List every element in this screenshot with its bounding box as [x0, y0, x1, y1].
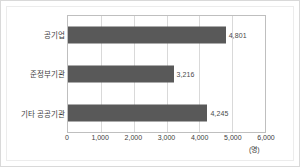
- bar-value-label: 4,801: [226, 32, 247, 39]
- unit-label: (명): [249, 144, 260, 154]
- bar-row: 4,245: [68, 93, 265, 132]
- bar-value-label: 3,216: [174, 70, 195, 77]
- bar[interactable]: [68, 27, 226, 44]
- category-label: 기타 공공기관: [7, 94, 65, 133]
- x-tick-label: 2,000: [125, 134, 143, 141]
- bar-row: 3,216: [68, 55, 265, 94]
- bar[interactable]: [68, 65, 174, 82]
- x-tick-label: 3,000: [158, 134, 176, 141]
- bar[interactable]: [68, 104, 207, 121]
- x-tick-label: 0: [65, 134, 69, 141]
- x-tick-label: 6,000: [257, 134, 275, 141]
- bar-series: 4,8013,2164,245: [68, 16, 265, 132]
- category-label: 공기업: [7, 15, 65, 54]
- bar-row: 4,801: [68, 16, 265, 55]
- bar-value-label: 4,245: [207, 109, 228, 116]
- chart-figure: 공기업준정부기관기타 공공기관 4,8013,2164,245 01,0002,…: [0, 0, 300, 167]
- x-tick-label: 5,000: [224, 134, 242, 141]
- category-label: 준정부기관: [7, 54, 65, 93]
- x-tick-label: 1,000: [91, 134, 109, 141]
- x-axis-tick-labels: 01,0002,0003,0004,0005,0006,000: [67, 134, 266, 148]
- x-tick-label: 4,000: [191, 134, 209, 141]
- category-axis-labels: 공기업준정부기관기타 공공기관: [7, 15, 65, 133]
- plot-area: 4,8013,2164,245: [67, 15, 266, 133]
